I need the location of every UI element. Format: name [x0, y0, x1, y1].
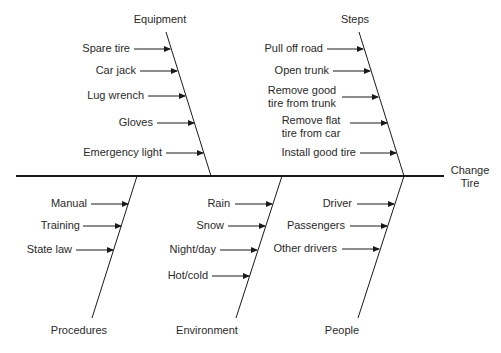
- cause-remove-good-tire-line1: Remove good: [262, 84, 342, 97]
- effect-label-line2: Tire: [440, 177, 500, 190]
- equipment-bone: [166, 32, 211, 176]
- cause-pull-off-road: Pull off road: [264, 42, 323, 55]
- people-arrows: [342, 204, 394, 249]
- cause-state-law: State law: [27, 243, 72, 256]
- equipment-arrows: [134, 49, 203, 153]
- cause-night-day: Night/day: [170, 243, 216, 256]
- effect-label-line1: Change: [440, 164, 500, 177]
- cause-driver: Driver: [323, 197, 352, 210]
- cause-lug-wrench: Lug wrench: [87, 89, 144, 102]
- category-label-steps: Steps: [305, 13, 405, 26]
- cause-remove-good-tire-line2: tire from trunk: [262, 97, 342, 110]
- category-label-environment: Environment: [157, 324, 257, 337]
- steps-bone: [359, 32, 404, 176]
- fishbone-diagram: [0, 0, 501, 353]
- cause-spare-tire: Spare tire: [82, 42, 130, 55]
- procedures-bone: [92, 176, 137, 318]
- cause-training: Training: [41, 219, 80, 232]
- cause-gloves: Gloves: [119, 116, 153, 129]
- category-label-equipment: Equipment: [110, 13, 210, 26]
- cause-install-good-tire: Install good tire: [281, 146, 356, 159]
- cause-open-trunk: Open trunk: [275, 64, 329, 77]
- cause-snow: Snow: [196, 219, 224, 232]
- category-label-procedures: Procedures: [29, 324, 129, 337]
- cause-passengers: Passengers: [287, 219, 345, 232]
- cause-emergency-light: Emergency light: [83, 146, 162, 159]
- cause-manual: Manual: [51, 197, 87, 210]
- cause-rain: Rain: [207, 197, 230, 210]
- cause-car-jack: Car jack: [96, 64, 136, 77]
- cause-hot-cold: Hot/cold: [168, 269, 208, 282]
- category-label-people: People: [292, 324, 392, 337]
- procedures-arrows: [76, 204, 128, 250]
- environment-arrows: [212, 204, 272, 276]
- cause-remove-flat-tire-line1: Remove flat: [276, 114, 346, 127]
- cause-other-drivers: Other drivers: [273, 242, 337, 255]
- people-bone: [358, 176, 404, 318]
- cause-remove-flat-tire-line2: tire from car: [276, 127, 346, 140]
